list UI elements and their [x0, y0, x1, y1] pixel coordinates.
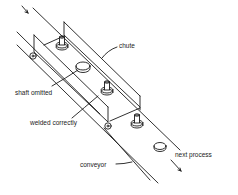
diagram-drawing: [0, 0, 238, 195]
roller-icon: [30, 53, 36, 59]
roller-icon: [105, 123, 111, 129]
part-with-shaft-icon: [131, 114, 143, 128]
chute-wall-back: [64, 22, 140, 110]
part-omitted-shaft-icon: [76, 62, 90, 73]
arrow-out-icon: [171, 160, 181, 171]
label-conveyor: conveyor: [80, 162, 106, 169]
label-next-process: next process: [175, 152, 212, 159]
label-welded-correctly: welded correctly: [30, 120, 77, 127]
leader-conveyor: [116, 162, 132, 164]
leader-chute: [102, 47, 117, 58]
part-omitted-shaft-icon: [154, 143, 166, 152]
chute-wall-front: [34, 35, 108, 122]
label-shaft-omitted: shaft omitted: [15, 90, 52, 97]
label-chute: chute: [119, 43, 135, 50]
part-with-shaft-icon: [56, 36, 68, 50]
